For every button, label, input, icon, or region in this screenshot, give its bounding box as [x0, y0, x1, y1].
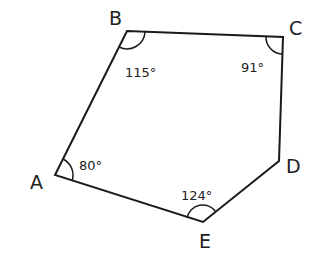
- angle-label-a: 80°: [79, 158, 102, 173]
- angle-label-b: 115°: [125, 65, 156, 80]
- vertex-label-a: A: [30, 171, 43, 193]
- vertex-label-d: D: [286, 155, 301, 177]
- vertex-label-c: C: [289, 17, 302, 39]
- vertex-label-b: B: [109, 7, 122, 29]
- vertex-label-e: E: [199, 230, 211, 252]
- angle-label-c: 91°: [241, 60, 264, 75]
- angle-arc-c: [266, 36, 283, 54]
- pentagon-diagram: A B C D E 80° 115° 91° 124°: [0, 0, 321, 277]
- angle-label-e: 124°: [181, 188, 212, 203]
